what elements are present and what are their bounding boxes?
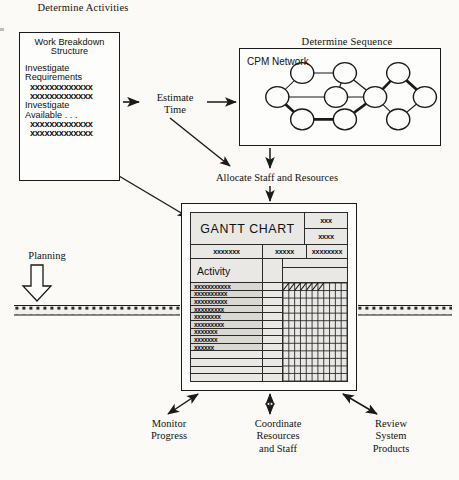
gantt-title-right-cell-1: xxx bbox=[305, 213, 347, 229]
arrow-wbs-to-gantt bbox=[119, 176, 188, 217]
gantt-header-narrow-cell bbox=[263, 259, 283, 282]
gantt-activity-header-row: Activity bbox=[191, 259, 347, 283]
gantt-narrow-cell bbox=[263, 298, 282, 306]
gantt-narrow-cell bbox=[263, 374, 282, 381]
gantt-activity-column-label: Activity bbox=[191, 259, 263, 282]
cpm-node[interactable] bbox=[364, 87, 387, 108]
gantt-chart-box: GANTT CHART xxx xxxx xxxxxxx xxxxx xxxxx… bbox=[181, 203, 357, 391]
gantt-narrow-cell bbox=[263, 336, 282, 344]
heading-determine-sequence: Determine Sequence bbox=[272, 36, 422, 48]
gantt-bar-hatch bbox=[300, 283, 306, 291]
gantt-bar-hatch bbox=[283, 283, 289, 291]
cpm-node[interactable] bbox=[291, 109, 314, 130]
gantt-narrow-cell bbox=[263, 351, 282, 359]
gantt-subheader-2: xxxxx bbox=[263, 245, 307, 258]
callout-review-system: Review System Products bbox=[352, 418, 430, 455]
cpm-nodes bbox=[266, 63, 437, 130]
gantt-bar-hatch bbox=[318, 283, 324, 291]
gantt-activity-row[interactable]: xxxxxx bbox=[191, 344, 262, 352]
gantt-narrow-cell bbox=[263, 283, 282, 291]
label-estimate-time: Estimate Time bbox=[143, 92, 207, 117]
gantt-bar-hatch bbox=[289, 283, 295, 291]
gantt-narrow-cell bbox=[263, 367, 282, 375]
gantt-activity-names: xxxxxxxxxxxxxxxxxxxxxxxxxxxxxxxxxxxxxxxx… bbox=[191, 283, 263, 381]
gantt-subheader-row: xxxxxxx xxxxx xxxxxxxx bbox=[191, 245, 347, 259]
gantt-activity-row[interactable]: xxxxxxxxxx bbox=[191, 291, 262, 299]
cpm-node[interactable] bbox=[333, 109, 356, 130]
wbs-line: Structure bbox=[20, 47, 119, 56]
gantt-activity-row[interactable] bbox=[191, 351, 262, 359]
gantt-activity-row[interactable] bbox=[191, 374, 262, 381]
gantt-timeline-header bbox=[283, 259, 347, 282]
hollow-down-arrow-icon bbox=[23, 265, 51, 301]
gantt-title: GANTT CHART bbox=[191, 213, 305, 244]
gantt-subheader-1: xxxxxxx bbox=[191, 245, 263, 258]
gantt-title-row: GANTT CHART xxx xxxx bbox=[191, 213, 347, 245]
gantt-activity-row[interactable]: xxxxxxxxx bbox=[191, 306, 262, 314]
arrow-gantt-review bbox=[343, 394, 377, 414]
gantt-bar-hatch bbox=[306, 283, 312, 291]
gantt-grid-svg bbox=[283, 283, 347, 381]
scan-edge-artifact bbox=[0, 28, 4, 31]
gantt-narrow-cell bbox=[263, 306, 282, 314]
heading-determine-activities: Determine Activities bbox=[8, 2, 158, 14]
callout-monitor-progress: Monitor Progress bbox=[131, 418, 207, 443]
gantt-subheader-3: xxxxxxxx bbox=[307, 245, 347, 258]
gantt-chart-inner: GANTT CHART xxx xxxx xxxxxxx xxxxx xxxxx… bbox=[190, 212, 348, 382]
gantt-title-right-cells: xxx xxxx bbox=[305, 213, 347, 244]
wbs-line: xxxxxxxxxxxxx bbox=[20, 129, 119, 138]
gantt-body: xxxxxxxxxxxxxxxxxxxxxxxxxxxxxxxxxxxxxxxx… bbox=[191, 283, 347, 381]
label-planning: Planning bbox=[12, 250, 82, 262]
work-breakdown-structure-box: Work BreakdownStructureInvestigateRequir… bbox=[19, 32, 120, 181]
gantt-activity-row[interactable]: xxxxxxx bbox=[191, 329, 262, 337]
gantt-bar-hatch bbox=[312, 283, 318, 291]
gantt-title-right-cell-2: xxxx bbox=[305, 229, 347, 244]
cpm-node[interactable] bbox=[324, 87, 347, 108]
callout-coordinate-resources: Coordinate Resources and Staff bbox=[232, 418, 324, 455]
label-allocate-staff-resources: Allocate Staff and Resources bbox=[182, 172, 372, 184]
gantt-activity-row[interactable]: xxxxxxx bbox=[191, 336, 262, 344]
gantt-narrow-cell bbox=[263, 344, 282, 352]
diagram-canvas: Determine Activities Determine Sequence … bbox=[0, 0, 459, 480]
gantt-activity-row[interactable] bbox=[191, 359, 262, 367]
gantt-narrow-column bbox=[263, 283, 283, 381]
gantt-timeline-grid bbox=[283, 283, 347, 381]
gantt-narrow-cell bbox=[263, 321, 282, 329]
gantt-activity-row[interactable]: xxxxxxxx bbox=[191, 313, 262, 321]
gantt-activity-row[interactable]: xxxxxxxxxx bbox=[191, 298, 262, 306]
gantt-activity-row[interactable]: xxxxxxxxx bbox=[191, 321, 262, 329]
gantt-narrow-cell bbox=[263, 291, 282, 299]
arrow-gantt-monitor bbox=[168, 394, 198, 414]
cpm-node[interactable] bbox=[266, 87, 289, 108]
cpm-node[interactable] bbox=[387, 109, 410, 130]
cpm-node[interactable] bbox=[333, 63, 356, 84]
arrow-estimate-to-allocate bbox=[170, 118, 230, 166]
gantt-narrow-cell bbox=[263, 313, 282, 321]
cpm-node[interactable] bbox=[413, 87, 436, 108]
gantt-activity-row[interactable] bbox=[191, 367, 262, 375]
gantt-narrow-cell bbox=[263, 329, 282, 337]
gantt-activity-row[interactable]: xxxxxxxxxxx bbox=[191, 283, 262, 291]
gantt-bar-hatch bbox=[295, 283, 301, 291]
cpm-network-title: CPM Network bbox=[247, 56, 309, 67]
cpm-node[interactable] bbox=[387, 63, 410, 84]
gantt-narrow-cell bbox=[263, 359, 282, 367]
